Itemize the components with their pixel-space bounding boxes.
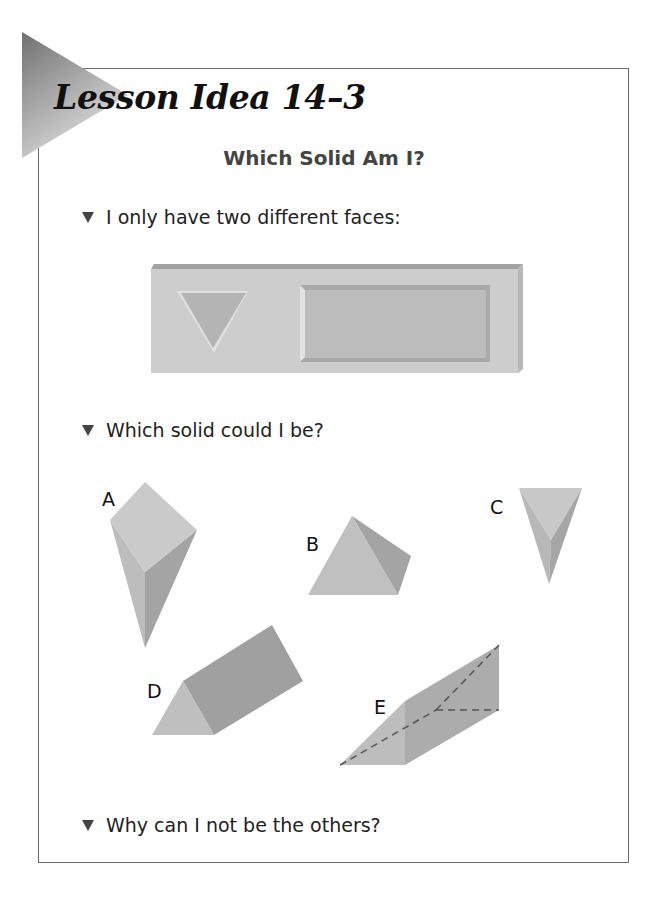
prompt-text: Why can I not be the others? xyxy=(106,814,381,836)
lesson-title: Lesson Idea 14–3 xyxy=(54,78,366,117)
lesson-subtitle: Which Solid Am I? xyxy=(0,146,664,170)
triangle-down-bullet-icon xyxy=(82,425,94,436)
prompt-two-faces: I only have two different faces: xyxy=(82,206,401,228)
prompt-why-not-others: Why can I not be the others? xyxy=(82,814,381,836)
lesson-frame xyxy=(38,68,629,863)
subtitle-text: Which Solid Am I? xyxy=(223,146,425,170)
triangle-down-bullet-icon xyxy=(82,212,94,223)
prompt-which-solid: Which solid could I be? xyxy=(82,419,324,441)
triangle-down-bullet-icon xyxy=(82,820,94,831)
prompt-text: I only have two different faces: xyxy=(106,206,401,228)
prompt-text: Which solid could I be? xyxy=(106,419,324,441)
